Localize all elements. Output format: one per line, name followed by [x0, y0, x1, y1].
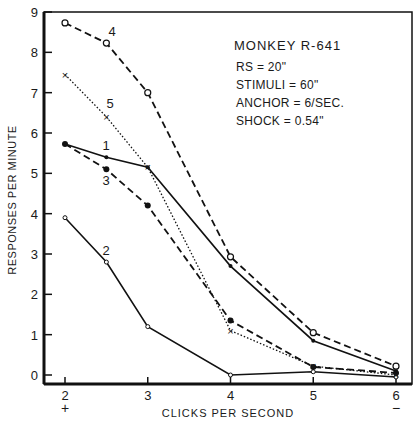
series-label: 4	[108, 24, 115, 39]
open-small-marker	[104, 260, 108, 264]
x-tick-label: 4	[227, 388, 234, 403]
x-marker: ×	[62, 69, 68, 81]
data-series: 1234××××××5	[62, 20, 399, 381]
x-tick-sublabel: −	[392, 400, 400, 416]
dot-marker	[229, 264, 233, 268]
open-circle-marker	[103, 40, 109, 46]
open-small-marker	[63, 216, 67, 220]
series-label: 3	[102, 173, 109, 188]
y-tick-label: 4	[31, 207, 38, 222]
x-marker: ×	[103, 111, 109, 123]
x-marker: ×	[227, 325, 233, 337]
dot-marker	[104, 155, 108, 159]
x-tick-sublabel: +	[61, 400, 69, 416]
y-tick-label: 2	[31, 287, 38, 302]
annotation-line: RS = 20"	[236, 60, 286, 74]
y-tick-label: 9	[31, 5, 38, 20]
y-tick-label: 3	[31, 247, 38, 262]
series-label: 5	[106, 96, 113, 111]
line-chart: 0123456789 2+3456− 1234××××××5 MONKEY R-…	[0, 0, 418, 430]
series-4: 4	[62, 20, 399, 369]
x-tick-label: 5	[310, 388, 317, 403]
open-small-marker	[146, 325, 150, 329]
y-ticks: 0123456789	[31, 5, 52, 383]
open-circle-marker	[310, 330, 316, 336]
filled-circle-marker	[103, 166, 109, 172]
open-circle-marker	[145, 90, 151, 96]
y-tick-label: 1	[31, 328, 38, 343]
x-tick-label: 3	[144, 388, 151, 403]
x-axis-label: CLICKS PER SECOND	[162, 407, 295, 419]
filled-circle-marker	[228, 318, 234, 324]
x-marker: ×	[145, 161, 151, 173]
annotation-line: STIMULI = 60"	[236, 78, 319, 92]
series-label: 2	[102, 243, 109, 258]
open-small-marker	[229, 373, 233, 377]
y-tick-label: 5	[31, 166, 38, 181]
filled-circle-marker	[145, 203, 151, 209]
open-circle-marker	[228, 254, 234, 260]
y-axis-label: RESPONSES PER MINUTE	[6, 125, 18, 274]
dot-marker	[311, 339, 315, 343]
open-circle-marker	[62, 20, 68, 26]
annotation-line: MONKEY R-641	[234, 38, 341, 53]
y-tick-label: 7	[31, 86, 38, 101]
y-tick-label: 6	[31, 126, 38, 141]
filled-circle-marker	[62, 141, 68, 147]
annotation-line: ANCHOR = 6/SEC.	[236, 96, 344, 110]
x-marker: ×	[310, 360, 316, 372]
annotation-line: SHOCK = 0.54"	[236, 114, 324, 128]
y-tick-label: 0	[31, 368, 38, 383]
x-marker: ×	[393, 369, 399, 381]
series-5: ××××××5	[62, 69, 399, 381]
series-2: 2	[63, 216, 398, 379]
y-tick-label: 8	[31, 45, 38, 60]
series-label: 1	[102, 138, 109, 153]
annotation-box: MONKEY R-641RS = 20"STIMULI = 60"ANCHOR …	[234, 38, 344, 128]
